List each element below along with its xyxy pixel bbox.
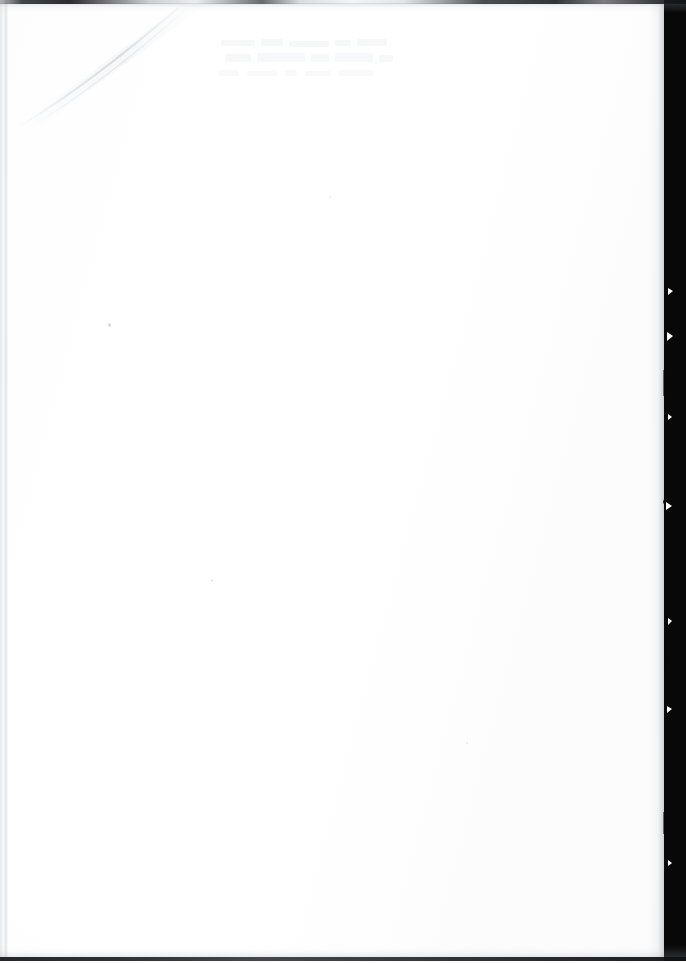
scanned-page xyxy=(0,0,686,963)
page-content-area xyxy=(56,64,630,900)
